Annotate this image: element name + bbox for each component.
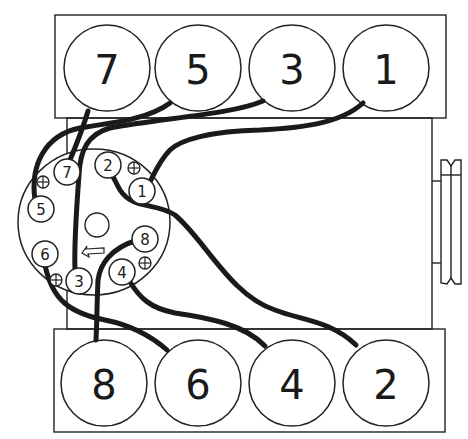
pulley-icon [432,160,461,284]
terminal-number: 6 [40,246,50,264]
plus-icon [139,257,151,269]
firing-order-diagram: 7531 8642 72158643 [0,0,468,439]
distributor-terminal-6: 6 [32,241,58,267]
terminal-number: 5 [36,201,46,219]
distributor-terminal-2: 2 [95,152,121,178]
cylinder-5: 5 [155,25,241,111]
cylinder-number: 1 [373,47,398,93]
cylinder-number: 2 [373,362,398,408]
plus-icon [128,162,140,174]
distributor-shaft [85,213,109,237]
distributor-terminal-5: 5 [28,196,54,222]
cylinder-number: 5 [185,47,210,93]
terminal-number: 7 [62,164,72,182]
distributor-terminal-3: 3 [66,268,92,294]
terminal-number: 4 [117,264,127,282]
distributor-terminal-1: 1 [129,178,155,204]
cylinder-number: 6 [185,362,210,408]
cylinder-number: 4 [279,362,304,408]
cylinder-number: 7 [94,47,119,93]
cylinder-1: 1 [343,25,429,111]
distributor-terminal-7: 7 [54,159,80,185]
distributor-terminal-4: 4 [109,259,135,285]
cylinder-2: 2 [343,340,429,426]
cylinder-3: 3 [249,25,335,111]
cylinder-4: 4 [249,340,335,426]
cylinder-number: 3 [279,47,304,93]
distributor-terminal-8: 8 [132,226,158,252]
terminal-number: 1 [137,183,147,201]
cylinder-7: 7 [64,25,150,111]
terminal-number: 3 [74,273,84,291]
cylinder-number: 8 [91,362,116,408]
cylinder-8: 8 [61,340,147,426]
plus-icon [50,274,62,286]
cylinder-6: 6 [155,340,241,426]
terminal-number: 8 [140,231,150,249]
plus-icon [37,176,49,188]
terminal-number: 2 [103,157,113,175]
